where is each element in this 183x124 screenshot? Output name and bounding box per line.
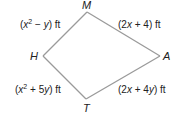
side-label-hm: (x2 − y) ft [20, 18, 61, 30]
side-label-ma: (2x + 4) ft [118, 19, 161, 30]
kite-diagram: M H A T (x2 − y) ft (2x + 4) ft (x2 + 5y… [0, 0, 183, 124]
side-label-ht: (x2 + 5y) ft [15, 83, 61, 95]
vertex-label-h: H [30, 50, 38, 62]
vertex-label-m: M [82, 0, 92, 11]
vertex-label-t: T [83, 102, 91, 114]
side-label-ta: (2x + 4y) ft [118, 84, 166, 95]
vertex-label-a: A [162, 50, 170, 62]
